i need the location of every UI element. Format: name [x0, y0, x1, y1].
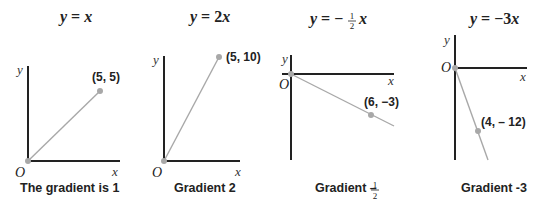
caption-frac-num: 1 [373, 180, 378, 190]
origin-label: O [152, 165, 162, 180]
origin-label: O [279, 77, 289, 92]
caption-frac-den: 2 [373, 191, 378, 201]
graph-line [164, 57, 219, 161]
point-label: (4, – 12) [481, 115, 526, 129]
equation-title: y = 2x [188, 8, 230, 26]
equation-title: y = − [308, 10, 343, 28]
point-dot [368, 112, 374, 118]
panel-y-equals-neg-3x: y = −3x y x O (4, – 12) Gradient -3 [441, 10, 527, 195]
panel-y-equals-x: y = x y x O (5, 5) The gradient is 1 [15, 8, 120, 195]
x-axis-label: x [234, 164, 241, 179]
gradient-diagram: y = x y x O (5, 5) The gradient is 1 y =… [0, 0, 539, 206]
caption: The gradient is 1 [20, 181, 119, 195]
panel-y-equals-2x: y = 2x y x O (5, 10) Gradient 2 [151, 8, 261, 195]
origin-label: O [15, 165, 25, 180]
panel-y-equals-neg-half-x: y = − 1 2 x y x O (6, −3) Gradient – 1 2 [279, 10, 399, 201]
x-axis-label: x [111, 164, 118, 179]
x-axis-label: x [387, 73, 394, 88]
equation-frac-num: 1 [350, 11, 355, 21]
caption: Gradient -3 [461, 181, 527, 195]
graph-line [455, 68, 488, 160]
equation-title: y = x [58, 8, 92, 26]
y-axis-label: y [15, 62, 23, 77]
y-axis-label: y [442, 32, 450, 47]
caption: Gradient – [315, 181, 377, 195]
origin-dot [25, 158, 31, 164]
point-label: (5, 5) [92, 70, 120, 84]
point-dot [97, 88, 103, 94]
graph-line [28, 91, 100, 161]
origin-label: O [441, 60, 451, 75]
origin-dot [161, 158, 167, 164]
point-dot [216, 54, 222, 60]
y-axis-label: y [151, 52, 159, 67]
point-label: (5, 10) [226, 50, 261, 64]
origin-dot [452, 65, 458, 71]
x-axis-label: x [519, 69, 526, 84]
y-axis-label: y [280, 51, 288, 66]
point-label: (6, −3) [364, 95, 399, 109]
equation-frac-den: 2 [350, 21, 355, 31]
equation-title: y = −3x [468, 10, 519, 28]
caption: Gradient 2 [174, 181, 236, 195]
equation-x: x [358, 10, 367, 27]
